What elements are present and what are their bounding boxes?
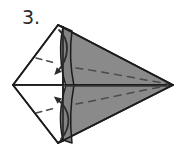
shaded-flaps-group xyxy=(58,25,173,143)
step-number-label: 3. xyxy=(22,6,40,28)
white-kite-body xyxy=(13,25,63,143)
origami-diagram: 3. xyxy=(0,0,185,157)
origami-step-figure: 3. xyxy=(0,0,185,157)
